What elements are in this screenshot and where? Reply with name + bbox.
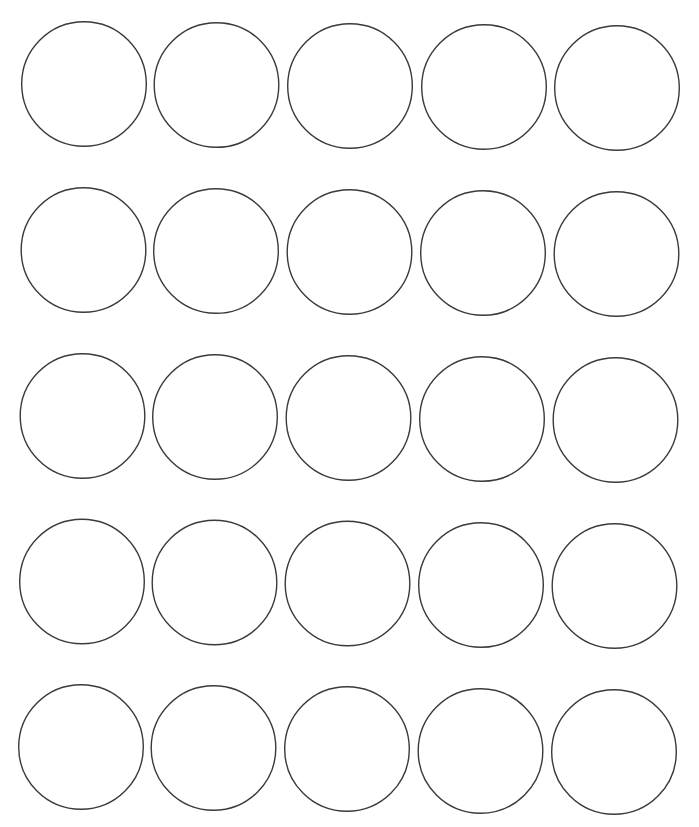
sheet-background (0, 0, 699, 827)
circle-label-sheet (0, 0, 699, 827)
